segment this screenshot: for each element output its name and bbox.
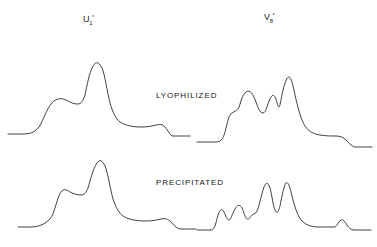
trace-layer (0, 0, 377, 247)
trace-precipitated-v8 (197, 183, 371, 230)
trace-precipitated-u1 (18, 161, 196, 229)
trace-lyophilized-v8 (197, 77, 372, 147)
densitometer-figure: U1' V8' LYOPHILIZED PRECIPITATED (0, 0, 377, 247)
trace-lyophilized-u1 (8, 63, 190, 136)
